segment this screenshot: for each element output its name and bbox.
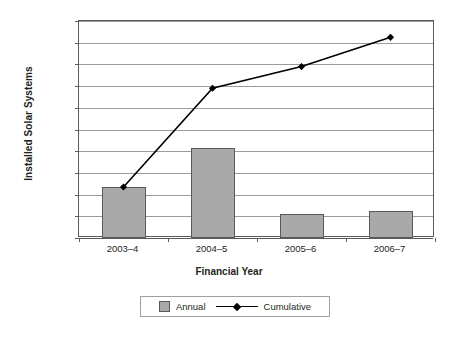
line-series-cumulative (79, 21, 435, 238)
x-tick-label-2006–7: 2006–7 (350, 243, 430, 254)
cumulative-marker-2005–6 (298, 63, 305, 70)
x-tick-mark-1 (168, 238, 169, 242)
x-tick-mark-4 (435, 238, 436, 242)
gridline-0 (79, 238, 433, 239)
cumulative-line-path (124, 37, 391, 187)
legend-item-annual: Annual (159, 301, 206, 312)
plot-area: 0200040006000800010000120001400016000180… (78, 20, 434, 237)
legend-label-annual: Annual (176, 301, 206, 312)
x-tick-label-2005–6: 2005–6 (261, 243, 341, 254)
chart-legend: Annual Cumulative (140, 296, 330, 317)
x-tick-mark-2 (257, 238, 258, 242)
legend-diamond-marker-icon (232, 302, 240, 310)
x-axis-title: Financial Year (0, 266, 458, 277)
x-tick-mark-0 (79, 238, 80, 242)
legend-label-cumulative: Cumulative (264, 301, 312, 312)
x-tick-label-2004–5: 2004–5 (172, 243, 252, 254)
cumulative-markers-group (120, 34, 394, 191)
chart-figure: Installed Solar Systems 0200040006000800… (0, 0, 458, 339)
legend-item-cumulative: Cumulative (216, 301, 312, 312)
x-tick-mark-3 (346, 238, 347, 242)
legend-line-diamond-icon (216, 301, 258, 312)
legend-square-swatch-icon (159, 301, 170, 312)
x-tick-label-2003–4: 2003–4 (83, 243, 163, 254)
y-axis-title: Installed Solar Systems (23, 24, 34, 224)
cumulative-marker-2006–7 (387, 34, 394, 41)
